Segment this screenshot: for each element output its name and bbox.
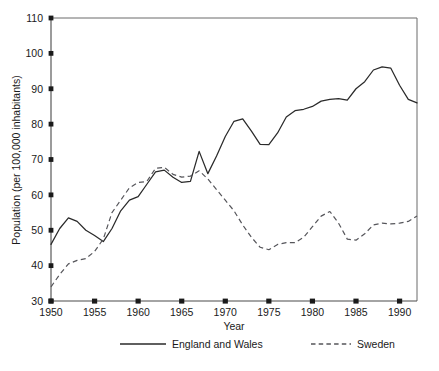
y-tick-mark [49, 86, 54, 91]
y-tick-mark [49, 228, 54, 233]
x-tick-label: 1985 [344, 306, 368, 318]
y-tick-mark [49, 192, 54, 197]
y-axis-title: Population (per 100,000 inhabitants) [10, 75, 22, 244]
x-tick-label: 1970 [214, 306, 238, 318]
population-line-chart: 30405060708090100110 1950195519601965197… [0, 0, 439, 371]
x-tick-label: 1955 [83, 306, 107, 318]
x-tick-mark [397, 299, 402, 304]
x-axis-title: Year [223, 320, 245, 332]
y-tick-label: 40 [31, 259, 43, 271]
y-tick-label: 50 [31, 224, 43, 236]
y-tick-mark [49, 263, 54, 268]
x-tick-mark [310, 299, 315, 304]
chart-figure: 30405060708090100110 1950195519601965197… [0, 0, 439, 371]
y-tick-label: 60 [31, 189, 43, 201]
x-tick-mark [92, 299, 97, 304]
x-tick-label: 1965 [170, 306, 194, 318]
y-tick-label: 70 [31, 153, 43, 165]
y-tick-label: 80 [31, 118, 43, 130]
x-tick-label: 1980 [301, 306, 325, 318]
y-tick-label: 100 [25, 47, 43, 59]
y-tick-label: 90 [31, 83, 43, 95]
y-tick-mark [49, 157, 54, 162]
x-tick-label: 1950 [39, 306, 63, 318]
legend-label: Sweden [357, 338, 395, 350]
y-tick-label: 110 [26, 12, 43, 24]
y-tick-mark [49, 51, 54, 56]
x-tick-label: 1975 [257, 306, 281, 318]
legend-label: England and Wales [172, 338, 263, 350]
y-tick-label: 30 [31, 295, 43, 307]
x-tick-mark [266, 299, 271, 304]
x-tick-mark [223, 299, 228, 304]
y-tick-mark [49, 16, 54, 21]
x-tick-mark [48, 299, 53, 304]
x-tick-mark [136, 299, 141, 304]
x-tick-label: 1990 [388, 306, 412, 318]
x-tick-mark [179, 299, 184, 304]
x-tick-mark [353, 299, 358, 304]
x-tick-label: 1960 [126, 306, 150, 318]
y-tick-mark [49, 122, 54, 127]
x-axis-ticks: 195019551960196519701975198019851990 [39, 299, 411, 318]
